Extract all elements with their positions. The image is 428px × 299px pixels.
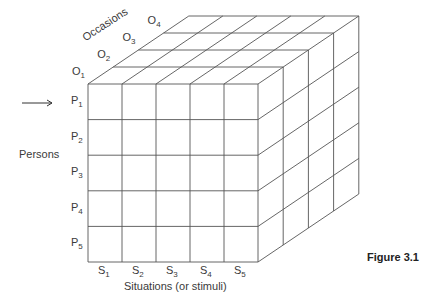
person-label-5: P5 [71,236,83,251]
occasion-label-1: O1 [72,65,85,80]
person-label-2: P2 [71,130,83,145]
situations-axis-label: Situations (or stimuli) [124,280,227,292]
occasion-label-3: O3 [122,31,135,46]
occasion-label-2: O2 [97,48,110,63]
situation-label-1: S1 [98,264,110,279]
situation-label-4: S4 [200,264,212,279]
situation-label-2: S2 [132,264,144,279]
person-label-3: P3 [71,165,83,180]
occasion-label-4: O4 [148,14,161,29]
situation-label-3: S3 [166,264,178,279]
persons-axis-label: Persons [19,148,59,160]
data-cube-diagram [0,0,428,299]
figure-caption: Figure 3.1 [367,251,419,263]
person-label-1: P1 [71,94,83,109]
situation-label-5: S5 [234,264,246,279]
person-label-4: P4 [71,201,83,216]
arrow-icon [22,100,52,106]
